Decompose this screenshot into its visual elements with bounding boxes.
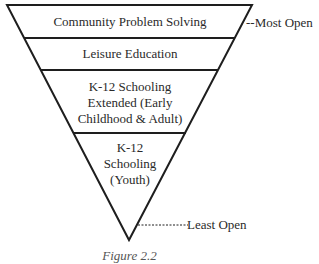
level-label-line: Extended (Early xyxy=(50,95,210,111)
least-open-annotation: Least Open xyxy=(187,217,247,232)
level-label-line: Schooling xyxy=(80,156,180,172)
figure-caption: Figure 2.2 xyxy=(0,248,259,264)
level-k12-extended: K-12 Schooling Extended (Early Childhood… xyxy=(50,79,210,127)
most-open-annotation: --Most Open xyxy=(246,15,313,30)
level-leisure-education: Leisure Education xyxy=(40,46,220,61)
level-community-problem-solving: Community Problem Solving xyxy=(20,14,240,29)
level-label-line: Childhood & Adult) xyxy=(50,111,210,127)
level-label: Community Problem Solving xyxy=(53,14,206,29)
level-label: Leisure Education xyxy=(83,46,178,61)
level-k12-youth: K-12 Schooling (Youth) xyxy=(80,140,180,188)
level-label-line: K-12 xyxy=(80,140,180,156)
level-label-line: (Youth) xyxy=(80,172,180,188)
level-label-line: K-12 Schooling xyxy=(50,79,210,95)
